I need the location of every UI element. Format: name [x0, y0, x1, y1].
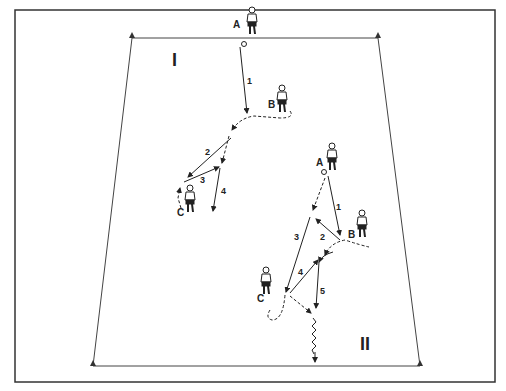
player-label: B: [268, 99, 275, 110]
ball-icon: [322, 170, 327, 175]
player-label: B: [348, 229, 355, 240]
player-icon: [357, 210, 367, 237]
step-number: 2: [205, 147, 210, 157]
player-label: C: [177, 207, 184, 218]
step-number: 4: [298, 267, 303, 277]
step-number: 3: [200, 175, 205, 185]
ball-icon: [242, 42, 247, 47]
player-icon: [277, 85, 287, 112]
step-number: 4: [221, 186, 226, 196]
step-number: 1: [247, 76, 252, 86]
drill-diagram: I II A B C 1 2 3 4 A B: [0, 0, 506, 391]
step-number: 2: [320, 232, 325, 242]
zone-2-drill: [261, 143, 369, 362]
frame-border: [15, 10, 495, 382]
zone-label-2: II: [360, 334, 370, 354]
player-label: A: [233, 19, 240, 30]
step-number: 3: [294, 232, 299, 242]
player-icon: [185, 185, 195, 212]
step-number: 5: [320, 286, 325, 296]
corner-cone-icons: [90, 32, 423, 366]
step-number: 1: [336, 202, 341, 212]
field: [93, 38, 420, 366]
player-icon: [261, 267, 271, 294]
zone-label-1: I: [172, 50, 177, 70]
player-label: A: [316, 157, 323, 168]
player-label: C: [257, 293, 264, 304]
player-icon: [327, 143, 337, 170]
player-icon: [247, 7, 257, 34]
